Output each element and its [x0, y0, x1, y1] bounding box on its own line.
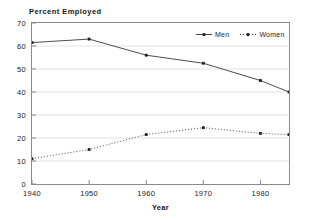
chart-title: Percent Employed	[29, 7, 102, 16]
legend-entry-women[interactable]: Women	[240, 31, 284, 38]
x-tick-label-1960: 1960	[137, 189, 155, 198]
data-point-men-1940	[32, 41, 33, 44]
data-point-women-1940	[32, 157, 33, 160]
legend-swatch-women-icon	[240, 31, 256, 38]
data-point-women-1985	[288, 133, 289, 136]
data-point-women-1960	[145, 133, 148, 136]
y-tick-label-0: 0	[22, 180, 26, 189]
series-line-women	[32, 128, 289, 159]
series-line-men	[32, 39, 289, 92]
y-tick-label-50: 50	[17, 65, 26, 74]
x-axis-title: Year	[31, 203, 290, 212]
legend-label: Men	[215, 31, 229, 38]
x-tick-label-1940: 1940	[23, 189, 41, 198]
y-tick-label-10: 10	[17, 157, 26, 166]
x-tick-label-1980: 1980	[251, 189, 269, 198]
y-tick-label-20: 20	[17, 134, 26, 143]
x-tick-label-1970: 1970	[194, 189, 212, 198]
y-tick-label-40: 40	[17, 88, 26, 97]
legend-entry-men[interactable]: Men	[196, 31, 229, 38]
data-point-men-1950	[88, 38, 91, 41]
data-point-men-1985	[288, 91, 289, 94]
x-tick-marks	[32, 180, 260, 184]
percent-employed-line-chart: Percent Employed 706050403020100 1940195…	[0, 0, 312, 220]
data-point-men-1970	[202, 62, 205, 65]
y-tick-label-60: 60	[17, 42, 26, 51]
plot-area	[31, 22, 290, 185]
series-layer	[32, 38, 289, 160]
data-point-men-1960	[145, 54, 148, 57]
gridlines	[32, 46, 289, 161]
legend-label: Women	[259, 31, 284, 38]
data-point-women-1970	[202, 126, 205, 129]
data-point-women-1980	[259, 132, 262, 135]
y-tick-label-30: 30	[17, 111, 26, 120]
plot-svg	[32, 23, 289, 184]
data-point-women-1950	[88, 148, 91, 151]
y-tick-label-70: 70	[17, 19, 26, 28]
y-axis-tick-labels: 706050403020100	[0, 22, 26, 185]
x-tick-label-1950: 1950	[80, 189, 98, 198]
x-axis-tick-labels: 19401950196019701980	[31, 189, 290, 201]
chart-legend: MenWomen	[196, 31, 285, 38]
data-point-men-1980	[259, 79, 262, 82]
legend-swatch-men-icon	[196, 31, 212, 38]
